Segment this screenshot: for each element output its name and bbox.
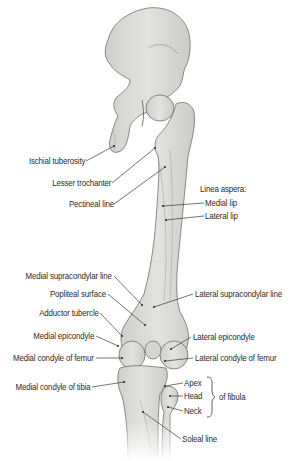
label-lesser-trochanter: Lesser trochanter — [52, 178, 111, 188]
label-popliteal-surface: Popliteal surface — [50, 289, 106, 299]
label-lateral-condyle-femur: Lateral condyle of femur — [195, 353, 277, 363]
label-head: Head — [184, 391, 202, 401]
anatomy-diagram: Ischial tuberosity Lesser trochanter Pec… — [0, 0, 299, 461]
label-pectineal-line: Pectineal line — [69, 199, 114, 209]
label-medial-epicondyle: Medial epicondyle — [33, 331, 94, 341]
label-medial-supracondylar-line: Medial supracondylar line — [26, 271, 112, 281]
label-lateral-supracondylar-line: Lateral supracondylar line — [195, 289, 282, 299]
label-lateral-lip: Lateral lip — [205, 211, 238, 221]
label-adductor-tubercle: Adductor tubercle — [39, 308, 99, 318]
label-medial-condyle-tibia: Medial condyle of tibia — [16, 382, 91, 392]
label-of-fibula: of fibula — [219, 392, 245, 402]
label-lateral-epicondyle: Lateral epicondyle — [193, 332, 255, 342]
label-linea-aspera: Linea aspera: — [200, 184, 246, 194]
label-soleal-line: Soleal line — [182, 434, 217, 444]
label-ischial-tuberosity: Ischial tuberosity — [29, 156, 85, 166]
label-medial-condyle-femur: Medial condyle of femur — [13, 353, 94, 363]
label-neck: Neck — [184, 406, 201, 416]
femur — [119, 95, 195, 369]
label-apex: Apex — [184, 378, 201, 388]
label-medial-lip: Medial lip — [205, 198, 237, 208]
fibula-brace — [207, 377, 215, 417]
